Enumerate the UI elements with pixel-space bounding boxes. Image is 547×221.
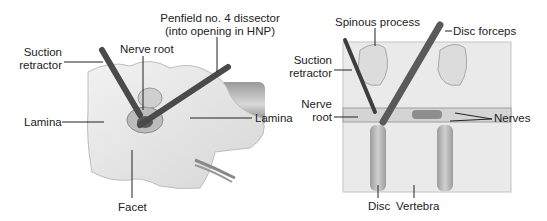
label-facet: Facet (118, 201, 147, 214)
label-lamina-right: Lamina (255, 112, 293, 125)
label-nerve-line1: Nerve (290, 98, 332, 111)
label-nerve-root-left: Nerve root (120, 43, 174, 56)
label-suction-line2: retractor (10, 59, 62, 72)
label-nerve-line2: root (290, 111, 332, 124)
label-lamina-left: Lamina (24, 116, 62, 129)
label-suction-retractor-left: Suction retractor (10, 46, 62, 72)
label-suction-line1-right: Suction (280, 54, 332, 67)
label-disc: Disc (368, 200, 390, 213)
label-nerves: Nerves (494, 112, 530, 125)
label-penfield-line1: Penfield no. 4 dissector (155, 12, 285, 25)
label-spinous-process: Spinous process (335, 16, 420, 29)
label-nerve-root-right: Nerve root (290, 98, 332, 124)
diagram-figure: Penfield no. 4 dissector (into opening i… (0, 0, 547, 221)
label-vertebra: Vertebra (396, 200, 439, 213)
lamina-bone-shape (88, 61, 265, 188)
label-penfield-dissector: Penfield no. 4 dissector (into opening i… (155, 12, 285, 38)
disc-shape (370, 125, 386, 191)
label-penfield-line2: (into opening in HNP) (155, 25, 285, 38)
left-illustration (62, 37, 265, 198)
label-suction-line2-right: retractor (280, 67, 332, 80)
label-suction-retractor-right: Suction retractor (280, 54, 332, 80)
label-suction-line1: Suction (10, 46, 62, 59)
right-illustration (334, 25, 511, 198)
label-disc-forceps: Disc forceps (453, 25, 516, 38)
